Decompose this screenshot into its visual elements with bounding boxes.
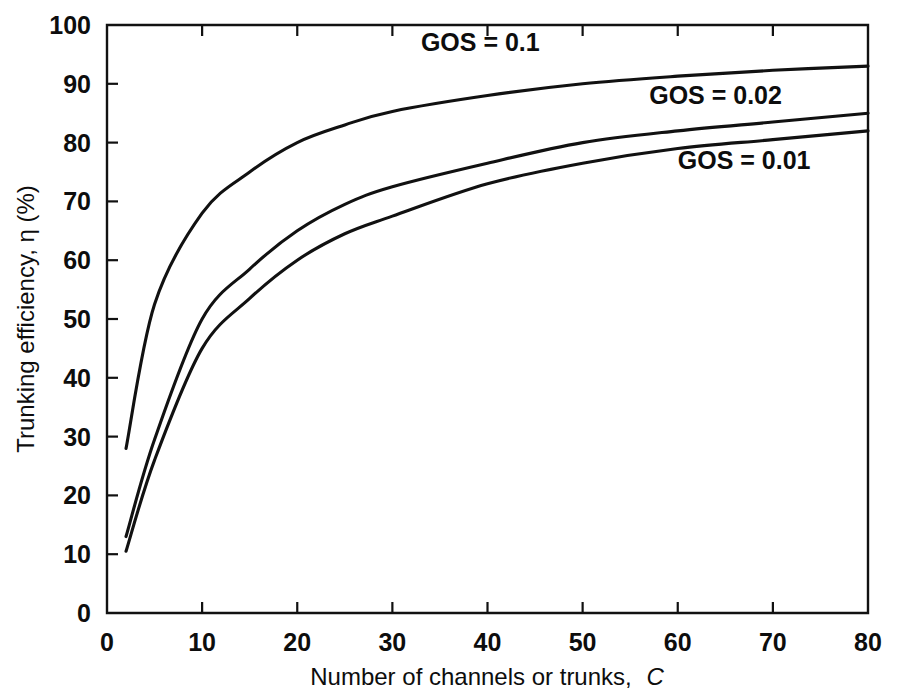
x-tick-label: 80 — [854, 628, 882, 656]
y-tick-label: 40 — [63, 364, 91, 392]
x-tick-label: 30 — [378, 628, 406, 656]
x-axis-title-text: Number of channels or trunks, — [310, 663, 631, 690]
y-tick-label: 30 — [63, 423, 91, 451]
y-tick-label: 80 — [63, 129, 91, 157]
x-tick-label: 10 — [188, 628, 216, 656]
series-label-1: GOS = 0.1 — [421, 28, 540, 56]
x-tick-label: 40 — [474, 628, 502, 656]
y-tick-label: 70 — [63, 187, 91, 215]
y-tick-label: 50 — [63, 305, 91, 333]
x-axis-title: Number of channels or trunks, C — [310, 663, 664, 690]
y-tick-label: 0 — [77, 599, 91, 627]
x-tick-label: 0 — [100, 628, 114, 656]
chart-container: 0102030405060708090100 01020304050607080… — [0, 0, 900, 696]
series-label-2: GOS = 0.02 — [649, 81, 782, 109]
x-tick-label: 50 — [569, 628, 597, 656]
y-tick-label: 10 — [63, 540, 91, 568]
x-tick-label: 20 — [283, 628, 311, 656]
y-tick-label: 20 — [63, 481, 91, 509]
series-label-3: GOS = 0.01 — [678, 146, 811, 174]
x-tick-label: 70 — [759, 628, 787, 656]
y-tick-label: 100 — [49, 11, 91, 39]
x-axis-title-variable: C — [646, 663, 664, 690]
y-tick-label: 60 — [63, 246, 91, 274]
y-tick-label: 90 — [63, 70, 91, 98]
y-axis-title: Trunking efficiency, η (%) — [12, 185, 39, 453]
trunking-efficiency-chart: 0102030405060708090100 01020304050607080… — [0, 0, 900, 696]
x-tick-label: 60 — [664, 628, 692, 656]
